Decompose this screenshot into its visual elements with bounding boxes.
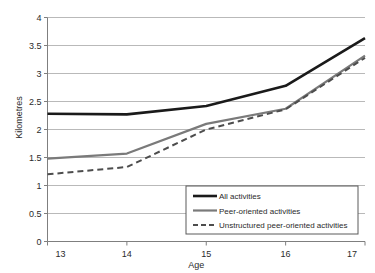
x-axis-title: Age xyxy=(188,260,204,270)
x-tick-label-13: 13 xyxy=(55,249,65,259)
line-chart: 00.511.522.533.54 1314151617 AgeKilometr… xyxy=(0,0,375,273)
y-axis-title: Kilometres xyxy=(14,96,24,139)
y-tick-label-3: 3 xyxy=(36,69,41,79)
y-tick-label-1: 1 xyxy=(36,181,41,191)
x-tick-label-17: 17 xyxy=(347,249,357,259)
y-tick-label-0: 0 xyxy=(36,237,41,247)
y-tick-label-1.5: 1.5 xyxy=(29,153,42,163)
legend-label-1: Peer-oriented activities xyxy=(219,207,300,216)
y-tick-label-2: 2 xyxy=(36,125,41,135)
y-tick-label-0.5: 0.5 xyxy=(29,209,42,219)
x-tick-label-14: 14 xyxy=(122,249,132,259)
chart-legend: All activitiesPeer-oriented activitiesUn… xyxy=(186,186,358,234)
x-tick-label-15: 15 xyxy=(201,249,211,259)
legend-label-2: Unstructured peer-oriented activities xyxy=(219,221,348,230)
legend-label-0: All activities xyxy=(219,192,261,201)
y-tick-label-4: 4 xyxy=(36,13,41,23)
y-tick-label-2.5: 2.5 xyxy=(29,97,42,107)
x-tick-label-16: 16 xyxy=(281,249,291,259)
y-tick-label-3.5: 3.5 xyxy=(29,41,42,51)
chart-container: 00.511.522.533.54 1314151617 AgeKilometr… xyxy=(0,0,375,273)
